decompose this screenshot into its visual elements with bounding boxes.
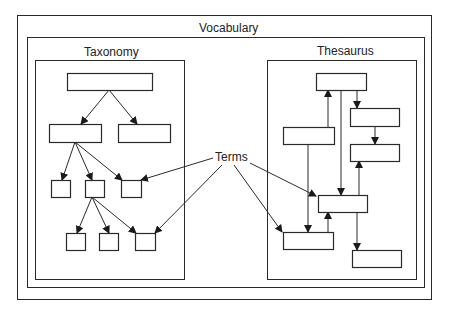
thesaurus-term-node xyxy=(319,196,368,213)
taxonomy-term-node xyxy=(122,181,142,198)
taxonomy-arrow xyxy=(92,197,109,233)
taxonomy-term-node xyxy=(119,125,171,143)
terms-pointer-arrow xyxy=(141,158,213,180)
taxonomy-arrow xyxy=(92,197,136,233)
thesaurus-term-node xyxy=(317,74,367,91)
taxonomy-term-node xyxy=(52,181,71,198)
taxonomy-term-node xyxy=(50,125,102,143)
taxonomy-term-node xyxy=(68,74,153,91)
taxonomy-title: Taxonomy xyxy=(84,46,139,58)
terms-label: Terms xyxy=(215,151,248,163)
thesaurus-term-node xyxy=(284,128,335,145)
taxonomy-arrow xyxy=(62,142,75,180)
taxonomy-term-node xyxy=(86,181,105,198)
taxonomy-term-node xyxy=(67,234,86,251)
taxonomy-term-node xyxy=(100,234,119,251)
taxonomy-arrow xyxy=(109,90,137,124)
thesaurus-nodes xyxy=(284,74,402,268)
vocabulary-title: Vocabulary xyxy=(199,22,258,34)
taxonomy-arrow xyxy=(75,142,92,180)
taxonomy-edges xyxy=(62,90,137,233)
taxonomy-arrow xyxy=(77,197,92,233)
terms-edges xyxy=(141,158,316,233)
terms-pointer-arrow xyxy=(155,165,222,233)
thesaurus-term-node xyxy=(351,109,400,127)
thesaurus-title: Thesaurus xyxy=(317,45,374,57)
thesaurus-term-node xyxy=(353,251,402,268)
thesaurus-term-node xyxy=(284,233,334,250)
taxonomy-arrow xyxy=(75,142,122,180)
thesaurus-term-node xyxy=(351,145,400,162)
taxonomy-term-node xyxy=(136,234,156,251)
taxonomy-arrow xyxy=(81,90,109,124)
terms-pointer-arrow xyxy=(250,163,316,196)
